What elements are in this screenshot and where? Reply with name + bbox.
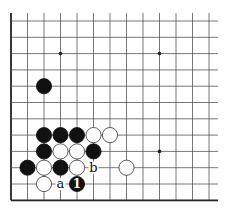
white-stone (69, 144, 84, 159)
black-stone (36, 144, 51, 159)
white-stone (36, 160, 51, 175)
black-stone (36, 79, 51, 94)
go-board: 1 ab (0, 0, 227, 212)
white-stone (69, 160, 84, 175)
point-label-a: a (57, 176, 65, 191)
white-stone (119, 160, 134, 175)
white-stone (86, 128, 101, 143)
black-stone (53, 128, 68, 143)
point-label-b: b (89, 160, 97, 175)
white-stone (53, 144, 68, 159)
white-stone (102, 128, 117, 143)
black-stone (53, 160, 68, 175)
black-stone (69, 128, 84, 143)
white-stone (36, 176, 51, 191)
star-point (158, 52, 162, 56)
star-point (59, 52, 63, 56)
black-stone (20, 160, 35, 175)
black-stone (36, 128, 51, 143)
star-point (158, 150, 162, 154)
move-number: 1 (73, 177, 81, 191)
black-stone (86, 144, 101, 159)
